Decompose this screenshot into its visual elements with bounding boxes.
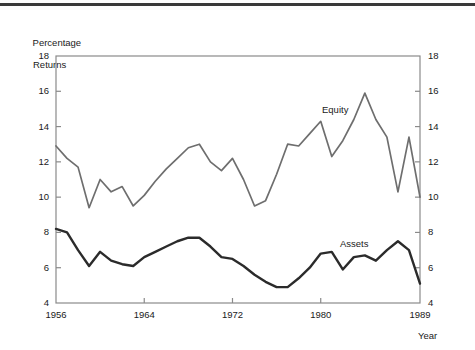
x-tick-label: 1980 — [301, 309, 341, 320]
y-tick-label-right: 8 — [428, 226, 448, 237]
y-tick-label-left: 12 — [29, 156, 49, 167]
y-tick-label-left: 4 — [29, 297, 49, 308]
y-tick-label-right: 18 — [428, 50, 448, 61]
y-tick-label-right: 10 — [428, 191, 448, 202]
y-tick-label-right: 6 — [428, 262, 448, 273]
y-tick-label-left: 10 — [29, 191, 49, 202]
y-tick-label-left: 18 — [29, 50, 49, 61]
y-tick-label-right: 4 — [428, 297, 448, 308]
y-tick-label-right: 12 — [428, 156, 448, 167]
x-tick-label: 1956 — [36, 309, 76, 320]
series-label-assets: Assets — [340, 238, 369, 249]
x-tick-label: 1972 — [212, 309, 252, 320]
tick-marks — [56, 91, 420, 303]
x-tick-label: 1964 — [124, 309, 164, 320]
y-tick-label-left: 6 — [29, 262, 49, 273]
data-series — [56, 93, 420, 287]
equity-line — [56, 93, 420, 208]
y-tick-label-left: 14 — [29, 121, 49, 132]
x-tick-label: 1989 — [400, 309, 440, 320]
y-tick-label-left: 16 — [29, 85, 49, 96]
y-tick-label-right: 16 — [428, 85, 448, 96]
series-label-equity: Equity — [322, 104, 348, 115]
plot-canvas — [0, 0, 475, 350]
chart-figure: Percentage Returns Year 4466881010121214… — [0, 0, 475, 350]
y-tick-label-right: 14 — [428, 121, 448, 132]
y-tick-label-left: 8 — [29, 226, 49, 237]
